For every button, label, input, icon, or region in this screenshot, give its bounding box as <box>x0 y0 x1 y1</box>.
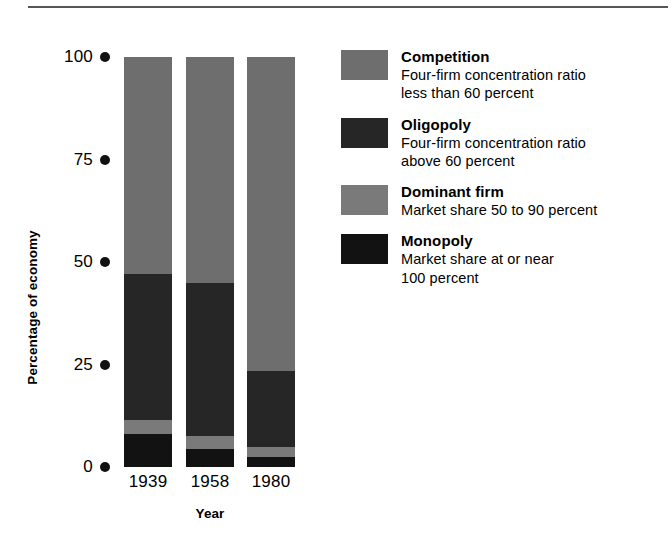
legend-swatch-monopoly <box>341 234 388 264</box>
bar-segment-oligopoly <box>247 371 295 447</box>
legend-swatch-oligopoly <box>341 118 388 148</box>
y-tick-dot-icon <box>100 52 110 62</box>
x-tick-label-1958: 1958 <box>179 472 241 492</box>
y-tick-50: 50 <box>74 254 110 270</box>
bar-segment-monopoly <box>247 457 295 467</box>
legend-title-monopoly: Monopoly <box>401 232 661 250</box>
legend-description-monopoly: Market share at or near 100 percent <box>401 250 661 287</box>
y-tick-0: 0 <box>83 459 110 475</box>
y-tick-dot-icon <box>100 155 110 165</box>
legend-item-oligopoly: OligopolyFour-firm concentration ratio a… <box>341 116 661 171</box>
y-tick-dot-icon <box>100 462 110 472</box>
bar-segment-dominant-firm <box>186 436 234 448</box>
y-tick-label: 0 <box>83 459 93 475</box>
x-axis-title: Year <box>150 506 270 521</box>
chart-legend: CompetitionFour-firm concentration ratio… <box>341 48 661 300</box>
bar-segment-dominant-firm <box>124 420 172 434</box>
bar-1980 <box>247 57 295 467</box>
y-tick-label: 75 <box>74 152 93 168</box>
legend-item-competition: CompetitionFour-firm concentration ratio… <box>341 48 661 103</box>
legend-text-monopoly: MonopolyMarket share at or near 100 perc… <box>401 232 661 287</box>
bar-segment-monopoly <box>186 449 234 467</box>
legend-title-oligopoly: Oligopoly <box>401 116 661 134</box>
bar-segment-monopoly <box>124 434 172 467</box>
legend-description-dominant-firm: Market share 50 to 90 percent <box>401 201 661 219</box>
bar-1958 <box>186 57 234 467</box>
bar-1939 <box>124 57 172 467</box>
legend-text-dominant-firm: Dominant firmMarket share 50 to 90 perce… <box>401 183 661 219</box>
bar-segment-competition <box>124 57 172 274</box>
legend-item-monopoly: MonopolyMarket share at or near 100 perc… <box>341 232 661 287</box>
legend-title-competition: Competition <box>401 48 661 66</box>
y-tick-label: 100 <box>64 49 93 65</box>
y-tick-label: 25 <box>74 357 93 373</box>
legend-swatch-competition <box>341 50 388 80</box>
legend-title-dominant-firm: Dominant firm <box>401 183 661 201</box>
legend-item-dominant-firm: Dominant firmMarket share 50 to 90 perce… <box>341 183 661 219</box>
y-tick-label: 50 <box>74 254 93 270</box>
bar-segment-competition <box>186 57 234 283</box>
plot-area: Percentage of economy 1007550250 1939195… <box>0 0 336 544</box>
y-tick-dot-icon <box>100 360 110 370</box>
y-tick-75: 75 <box>74 152 110 168</box>
legend-description-competition: Four-firm concentration ratio less than … <box>401 66 661 103</box>
legend-text-oligopoly: OligopolyFour-firm concentration ratio a… <box>401 116 661 171</box>
y-tick-25: 25 <box>74 357 110 373</box>
x-tick-label-1980: 1980 <box>240 472 302 492</box>
bar-segment-oligopoly <box>124 274 172 420</box>
bar-segment-competition <box>247 57 295 371</box>
bar-segment-dominant-firm <box>247 447 295 457</box>
x-tick-label-1939: 1939 <box>117 472 179 492</box>
legend-text-competition: CompetitionFour-firm concentration ratio… <box>401 48 661 103</box>
y-axis-title: Percentage of economy <box>25 208 40 408</box>
y-tick-100: 100 <box>64 49 110 65</box>
bar-segment-oligopoly <box>186 283 234 437</box>
legend-description-oligopoly: Four-firm concentration ratio above 60 p… <box>401 134 661 171</box>
y-tick-dot-icon <box>100 257 110 267</box>
figure-container: Percentage of economy 1007550250 1939195… <box>0 0 672 544</box>
legend-swatch-dominant-firm <box>341 185 388 215</box>
